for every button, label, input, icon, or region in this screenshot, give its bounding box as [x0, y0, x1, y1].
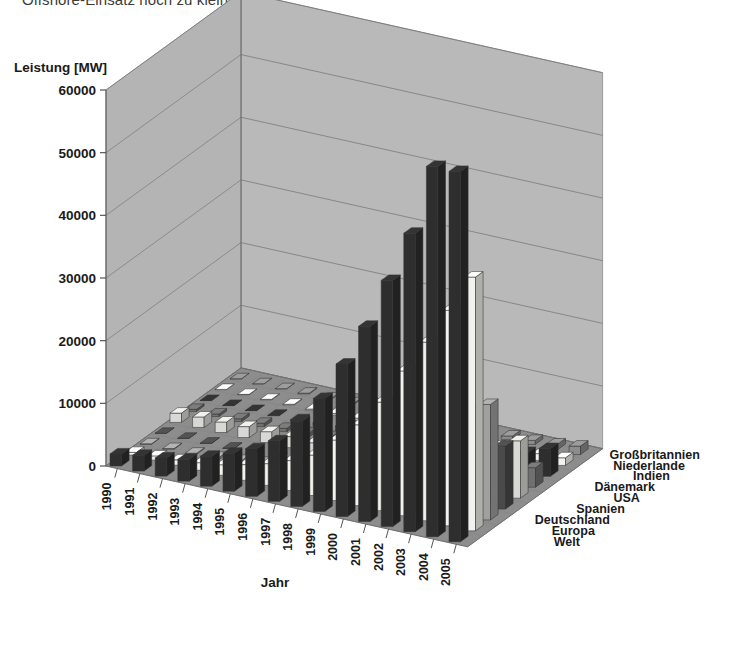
bar-side	[212, 451, 220, 486]
y-tick-label: 20000	[58, 334, 96, 349]
x-tick-label: 2003	[394, 548, 408, 576]
x-tick-label: 2002	[372, 543, 386, 571]
bar	[336, 359, 355, 517]
bar-front	[313, 398, 325, 511]
bar-front	[170, 413, 182, 422]
x-tick	[296, 509, 299, 518]
bar-front	[223, 453, 235, 491]
x-tick-label: 1990	[100, 482, 114, 510]
bar-front	[155, 458, 167, 476]
x-tick-label: 1997	[259, 518, 273, 546]
bar	[313, 393, 332, 512]
x-tick	[409, 534, 412, 543]
x-tick-label: 1994	[191, 503, 205, 531]
bar	[155, 452, 174, 476]
bar-side	[521, 435, 529, 498]
bar-front	[238, 427, 250, 438]
bar-front	[246, 449, 258, 497]
y-tick-label: 0	[88, 459, 96, 474]
x-tick-label: 1995	[213, 508, 227, 536]
x-tick	[431, 539, 434, 548]
y-tick-label: 60000	[58, 83, 96, 98]
bar-front	[215, 422, 227, 433]
y-tick-label: 30000	[58, 271, 96, 286]
bar	[268, 435, 287, 501]
y-tick-label: 10000	[58, 396, 96, 411]
bar	[381, 275, 400, 527]
bar-side	[280, 435, 288, 501]
bar-front	[291, 421, 303, 506]
x-tick	[160, 479, 163, 488]
x-tick-label: 2004	[417, 553, 431, 581]
bar-side	[393, 275, 401, 527]
bar	[449, 166, 468, 542]
x-tick-label: 1996	[236, 513, 250, 541]
bar-side	[476, 272, 484, 531]
bar	[426, 161, 445, 537]
x-tick	[386, 529, 389, 538]
bar-front	[110, 454, 122, 466]
x-tick	[250, 499, 253, 508]
bar-side	[302, 416, 310, 507]
x-axis-title: Jahr	[261, 575, 290, 590]
x-tick-label: 1993	[168, 498, 182, 526]
bar-front	[501, 436, 513, 439]
x-tick	[341, 519, 344, 528]
bar-front	[268, 441, 280, 502]
bar-front	[200, 456, 212, 486]
y-axis-title: Leistung [MW]	[14, 60, 107, 75]
bar-side	[370, 321, 378, 522]
bar-side	[415, 228, 423, 532]
bar-front	[336, 364, 348, 516]
bar-side	[438, 161, 446, 537]
wind-power-3d-bar-chart: 0100002000030000400005000060000Leistung …	[0, 0, 754, 648]
x-tick-label: 2005	[439, 558, 453, 586]
x-tick	[318, 514, 321, 523]
x-tick	[205, 489, 208, 498]
bar-front	[449, 171, 461, 541]
bar-front	[193, 417, 205, 428]
bar-front	[404, 233, 416, 531]
bar-side	[491, 399, 499, 520]
bar-side	[235, 448, 243, 492]
x-tick	[183, 484, 186, 493]
y-tick-label: 40000	[58, 208, 96, 223]
bar-side	[348, 359, 356, 517]
x-tick-label: 1999	[304, 528, 318, 556]
bar	[359, 321, 378, 522]
x-tick-label: 1998	[281, 523, 295, 551]
bar-front	[178, 459, 190, 481]
x-tick-label: 1991	[123, 488, 137, 516]
bar-side	[257, 443, 265, 496]
bar	[200, 451, 219, 486]
bar	[178, 454, 197, 481]
x-tick	[454, 544, 457, 553]
bar	[246, 443, 265, 496]
x-tick	[228, 494, 231, 503]
x-tick	[273, 504, 276, 513]
bar-side	[506, 441, 514, 509]
x-tick	[137, 474, 140, 483]
x-tick-label: 2001	[349, 538, 363, 566]
chart-page: Offshore-Einsatz noch zu klein. 01000020…	[0, 0, 754, 648]
x-tick-label: 2000	[326, 533, 340, 561]
bar	[291, 416, 310, 507]
x-tick	[363, 524, 366, 533]
bar	[404, 228, 423, 532]
bar-front	[381, 280, 393, 526]
x-tick-label: 1992	[146, 493, 160, 521]
bar	[133, 450, 152, 471]
y-tick-label: 50000	[58, 146, 96, 161]
bar-side	[461, 166, 469, 542]
bar	[223, 448, 242, 492]
bar-front	[359, 326, 371, 521]
series-label: Großbritannien	[610, 448, 700, 462]
bar-front	[133, 455, 145, 471]
bar-front	[426, 166, 438, 536]
x-tick	[115, 469, 118, 478]
bar-side	[325, 393, 333, 512]
